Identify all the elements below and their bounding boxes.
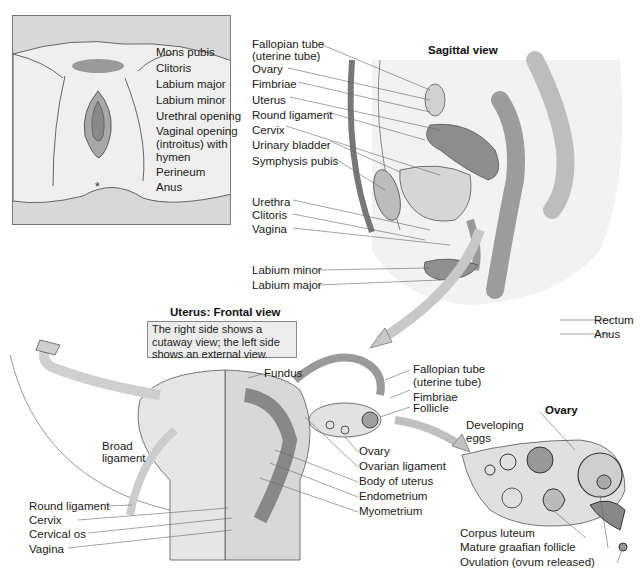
label-perineum: Perineum: [156, 166, 205, 179]
frontal-view-title: Uterus: Frontal view: [170, 306, 281, 318]
label-cervical-os: Cervical os: [29, 528, 86, 541]
label-urinary-bladder: Urinary bladder: [252, 139, 331, 152]
ovary-title: Ovary: [545, 404, 578, 416]
label-developing: Developing: [466, 419, 524, 432]
label-cervix: Cervix: [252, 124, 285, 137]
frontal-view-note: The right side shows a cutaway view; the…: [147, 321, 297, 358]
label-round-ligament: Round ligament: [252, 109, 333, 122]
label-uterus: Uterus: [252, 94, 286, 107]
label-body-of-uterus: Body of uterus: [359, 475, 433, 488]
label-ovary-frontal: Ovary: [359, 445, 390, 458]
label-urethral-opening: Urethral opening: [156, 110, 241, 123]
label-corpus-luteum: Corpus luteum: [460, 527, 535, 540]
label-ovarian-ligament: Ovarian ligament: [359, 460, 446, 473]
label-vagina-frontal: Vagina: [29, 543, 64, 556]
label-uterine-tube-frontal: (uterine tube): [413, 376, 481, 389]
sagittal-view-title: Sagittal view: [428, 44, 498, 56]
label-labium-minor: Labium minor: [156, 94, 226, 107]
label-hymen: hymen: [156, 151, 191, 164]
svg-text:*: *: [95, 180, 100, 194]
label-ovary: Ovary: [252, 63, 283, 76]
label-clitoris-sagittal: Clitoris: [252, 209, 287, 222]
label-vaginal-opening: Vaginal opening: [156, 125, 238, 138]
label-endometrium: Endometrium: [359, 490, 427, 503]
label-labium-major-sagittal: Labium major: [252, 279, 322, 292]
label-symphysis-pubis: Symphysis pubis: [252, 155, 338, 168]
label-clitoris: Clitoris: [156, 62, 191, 75]
label-eggs: eggs: [466, 432, 491, 445]
label-follicle: Follicle: [413, 402, 449, 415]
label-anus-sagittal: Anus: [594, 328, 620, 341]
label-vagina-sagittal: Vagina: [252, 223, 287, 236]
label-cervix-frontal: Cervix: [29, 514, 62, 527]
label-fimbriae: Fimbriae: [252, 78, 297, 91]
label-myometrium: Myometrium: [359, 505, 422, 518]
label-labium-minor-sagittal: Labium minor: [252, 264, 322, 277]
label-urethra: Urethra: [252, 196, 290, 209]
label-anus-external: Anus: [156, 181, 182, 194]
label-ovulation: Ovulation (ovum released): [460, 556, 595, 569]
label-labium-major: Labium major: [156, 78, 226, 91]
label-mons-pubis: Mons pubis: [156, 46, 215, 59]
label-mature-graafian-follicle: Mature graafian follicle: [460, 541, 576, 554]
label-uterine-tube: (uterine tube): [252, 50, 320, 63]
label-rectum: Rectum: [594, 314, 634, 327]
label-round-ligament-frontal: Round ligament: [29, 500, 110, 513]
label-fundus: Fundus: [264, 367, 302, 380]
label-fallopian-tube-frontal: Fallopian tube: [413, 363, 485, 376]
label-ligament: ligament: [102, 452, 145, 465]
label-introitus: (introitus) with: [156, 138, 228, 151]
